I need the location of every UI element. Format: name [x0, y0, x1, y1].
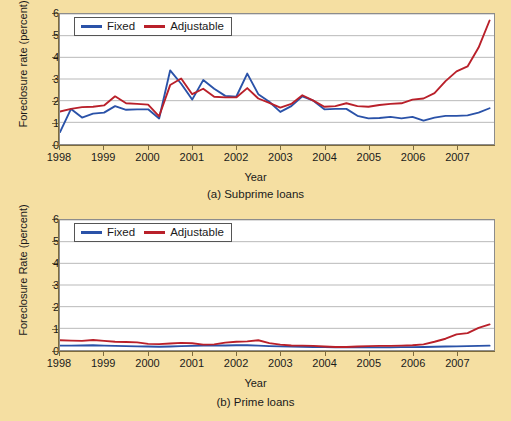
legend-label-adjustable: Adjustable: [170, 226, 224, 239]
x-tick-label: 1998: [39, 151, 79, 163]
x-axis-prime: 1998199920002001200220032004200520062007: [59, 351, 495, 377]
series-line-fixed: [60, 345, 490, 347]
x-tick-label: 2000: [128, 151, 168, 163]
y-tick-label: 1: [31, 324, 59, 334]
y-tick-label: 4: [31, 258, 59, 268]
caption-prime: (b) Prime loans: [0, 396, 511, 408]
x-tick-label: 2004: [305, 357, 345, 369]
series-line-adjustable: [60, 324, 490, 347]
x-tick-label: 1999: [83, 357, 123, 369]
x-tick-label: 2000: [128, 357, 168, 369]
legend-swatch-adjustable: [144, 25, 165, 28]
panel-prime: Foreclosure Rate (percent) 0123456 19981…: [0, 206, 511, 421]
legend-swatch-fixed: [81, 231, 102, 234]
caption-subprime: (a) Subprime loans: [0, 188, 511, 200]
chart-subprime: Foreclosure rate (percent) 0123456 19981…: [0, 0, 511, 170]
legend-item-adjustable: Adjustable: [144, 20, 224, 33]
legend-label-fixed: Fixed: [107, 20, 135, 33]
x-axis-subprime: 1998199920002001200220032004200520062007: [59, 145, 495, 171]
x-tick-label: 2003: [260, 357, 300, 369]
x-tick-mark: [103, 351, 104, 356]
x-tick-label: 2006: [393, 357, 433, 369]
x-tick-label: 2005: [349, 151, 389, 163]
legend-label-fixed: Fixed: [107, 226, 135, 239]
x-tick-label: 2002: [216, 151, 256, 163]
x-axis-title-prime: Year: [0, 377, 511, 389]
x-tick-mark: [369, 145, 370, 150]
legend-item-fixed: Fixed: [81, 20, 135, 33]
x-tick-label: 2001: [172, 357, 212, 369]
chart-prime: Foreclosure Rate (percent) 0123456 19981…: [0, 206, 511, 376]
x-tick-mark: [236, 351, 237, 356]
x-tick-mark: [280, 351, 281, 356]
x-tick-mark: [325, 145, 326, 150]
x-tick-mark: [192, 351, 193, 356]
x-tick-label: 2007: [437, 151, 477, 163]
x-tick-mark: [148, 351, 149, 356]
x-tick-mark: [457, 145, 458, 150]
x-tick-label: 2001: [172, 151, 212, 163]
y-tick-label: 2: [31, 96, 59, 106]
y-tick-label: 0: [31, 140, 59, 150]
y-axis-subprime: 0123456: [0, 0, 59, 160]
legend-prime: Fixed Adjustable: [74, 223, 232, 242]
legend-item-adjustable: Adjustable: [144, 226, 224, 239]
x-tick-label: 1998: [39, 357, 79, 369]
x-tick-label: 2002: [216, 357, 256, 369]
x-tick-mark: [192, 145, 193, 150]
x-tick-mark: [457, 351, 458, 356]
x-axis-title-subprime: Year: [0, 171, 511, 183]
legend-item-fixed: Fixed: [81, 226, 135, 239]
x-tick-label: 2004: [305, 151, 345, 163]
y-axis-prime: 0123456: [0, 206, 59, 366]
x-tick-mark: [148, 145, 149, 150]
y-tick-label: 1: [31, 118, 59, 128]
x-tick-mark: [369, 351, 370, 356]
y-tick-label: 0: [31, 346, 59, 356]
legend-swatch-fixed: [81, 25, 102, 28]
x-tick-mark: [236, 145, 237, 150]
y-tick-label: 6: [31, 214, 59, 224]
x-tick-label: 2005: [349, 357, 389, 369]
legend-swatch-adjustable: [144, 231, 165, 234]
x-tick-mark: [59, 145, 60, 150]
y-tick-label: 6: [31, 8, 59, 18]
x-tick-mark: [103, 145, 104, 150]
x-tick-label: 2006: [393, 151, 433, 163]
y-tick-label: 2: [31, 302, 59, 312]
legend-subprime: Fixed Adjustable: [74, 17, 232, 36]
y-tick-label: 5: [31, 30, 59, 40]
x-tick-label: 1999: [83, 151, 123, 163]
legend-label-adjustable: Adjustable: [170, 20, 224, 33]
y-tick-label: 4: [31, 52, 59, 62]
x-tick-mark: [280, 145, 281, 150]
x-tick-mark: [59, 351, 60, 356]
panel-subprime: Foreclosure rate (percent) 0123456 19981…: [0, 0, 511, 206]
y-tick-label: 5: [31, 236, 59, 246]
x-tick-mark: [413, 351, 414, 356]
x-tick-label: 2007: [437, 357, 477, 369]
y-tick-label: 3: [31, 74, 59, 84]
x-tick-mark: [413, 145, 414, 150]
x-tick-label: 2003: [260, 151, 300, 163]
x-tick-mark: [325, 351, 326, 356]
y-tick-label: 3: [31, 280, 59, 290]
